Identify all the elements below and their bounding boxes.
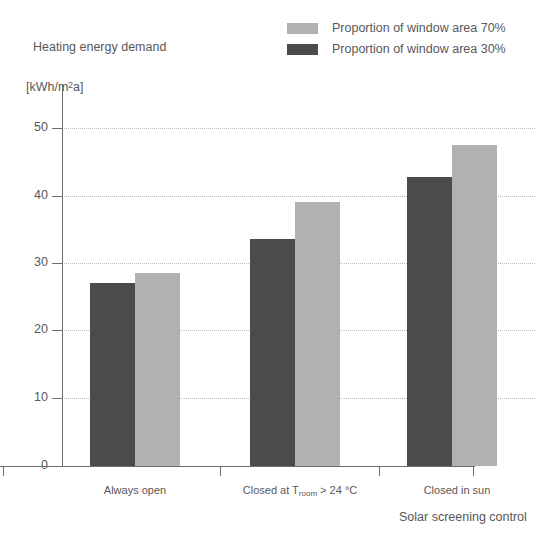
y-tick-label-50: 50 <box>14 121 48 134</box>
bar-closed-at-troom-70pct[interactable] <box>295 202 340 466</box>
x-category-label-always-open: Always open <box>55 483 215 497</box>
bar-closed-in-sun-30pct[interactable] <box>407 177 452 466</box>
x-axis-line <box>0 466 475 467</box>
x-tick-mark-end <box>473 466 474 476</box>
bar-chart-plot-area: 50 40 30 20 10 0 Always open Closed at T… <box>0 0 557 546</box>
x-category-label-closed-at-troom-subscript: room <box>299 489 317 498</box>
x-tick-mark-start <box>3 466 4 476</box>
x-axis-title: Solar screening control <box>399 510 527 524</box>
y-tick-label-40: 40 <box>14 189 48 202</box>
y-tick-label-30: 30 <box>14 256 48 269</box>
bar-always-open-70pct[interactable] <box>135 273 180 466</box>
x-category-label-closed-at-troom-suffix: > 24 °C <box>317 484 357 496</box>
bar-always-open-30pct[interactable] <box>90 283 135 466</box>
x-category-label-closed-at-troom: Closed at Troom > 24 °C <box>215 483 385 501</box>
x-category-label-always-open-text: Always open <box>104 484 166 496</box>
bar-closed-at-troom-30pct[interactable] <box>250 239 295 466</box>
x-tick-mark-2 <box>379 466 380 476</box>
x-tick-mark-1 <box>220 466 221 476</box>
x-category-label-closed-in-sun: Closed in sun <box>392 483 522 497</box>
y-tick-label-20: 20 <box>14 323 48 336</box>
y-axis-line <box>62 85 63 467</box>
gridline-50 <box>62 128 535 130</box>
x-category-label-closed-at-troom-prefix: Closed at T <box>243 484 299 496</box>
x-category-label-closed-in-sun-text: Closed in sun <box>424 484 491 496</box>
bar-closed-in-sun-70pct[interactable] <box>452 145 497 466</box>
y-tick-label-10: 10 <box>14 391 48 404</box>
